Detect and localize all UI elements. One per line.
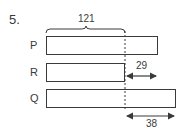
bar-r (47, 64, 125, 82)
brace (46, 26, 125, 33)
bar-p (47, 37, 158, 55)
bar-model-diagram (0, 0, 187, 132)
bar-q (47, 90, 176, 108)
